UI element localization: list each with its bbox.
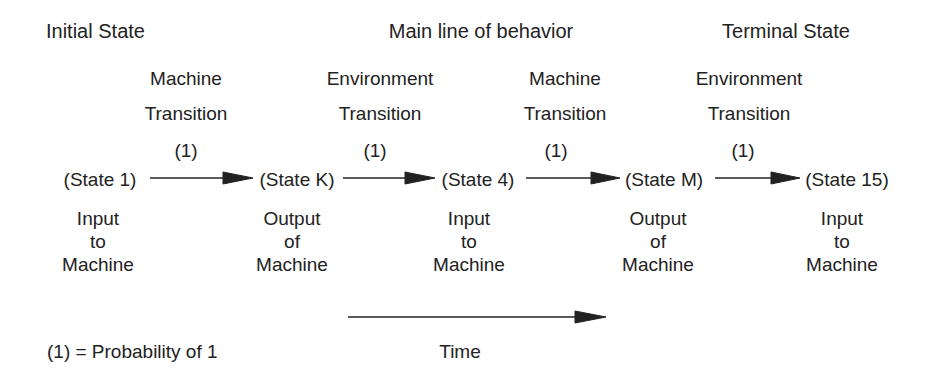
arrow-icon-3 [526, 172, 620, 184]
state-4-description: Input to Machine [433, 207, 505, 276]
time-arrow-icon [348, 311, 606, 323]
state-1-description: Input to Machine [62, 207, 134, 276]
arrow-icon-2 [343, 172, 435, 184]
probability-legend: (1) = Probability of 1 [47, 341, 218, 363]
state-m-description: Output of Machine [622, 207, 694, 276]
arrow-icon-1 [150, 172, 253, 184]
state-15-description: Input to Machine [806, 207, 878, 276]
arrow-icon-4 [715, 172, 800, 184]
time-label: Time [439, 341, 481, 363]
arrows-layer [0, 0, 934, 384]
state-k-description: Output of Machine [256, 207, 328, 276]
